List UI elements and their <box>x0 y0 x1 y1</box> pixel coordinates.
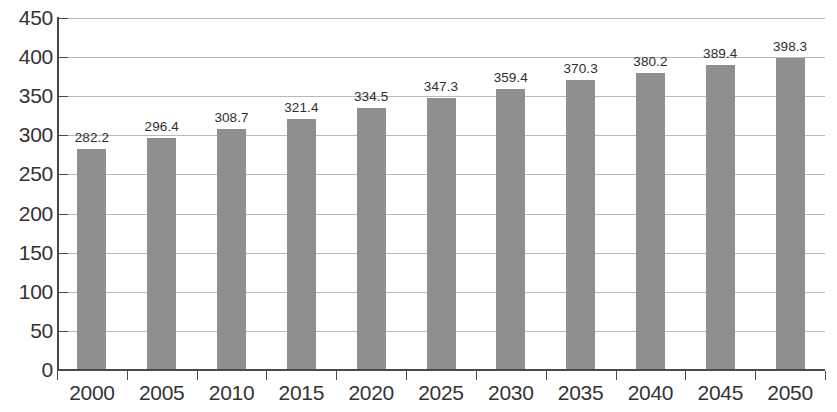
y-axis-tick-450 <box>59 18 68 19</box>
y-axis-label-50: 50 <box>1 320 53 341</box>
bar-2030[interactable] <box>496 89 525 370</box>
y-axis-tick-150 <box>59 253 68 254</box>
bar-2015[interactable] <box>287 119 316 370</box>
bar-2020[interactable] <box>357 108 386 370</box>
bar-2040[interactable] <box>636 73 665 370</box>
bar-2035[interactable] <box>566 80 595 370</box>
bar-2045[interactable] <box>706 65 735 370</box>
bar-value-label-2035: 370.3 <box>546 62 616 76</box>
bar-value-label-2025: 347.3 <box>406 80 476 94</box>
bar-value-label-2015: 321.4 <box>266 101 336 115</box>
y-axis-tick-250 <box>59 174 68 175</box>
bar-value-label-2030: 359.4 <box>476 71 546 85</box>
x-axis-label-2050: 2050 <box>745 382 835 403</box>
x-axis-tick-1 <box>127 371 128 380</box>
x-axis-line <box>57 369 825 371</box>
y-axis-label-350: 350 <box>1 85 53 106</box>
bar-value-label-2040: 380.2 <box>615 55 685 69</box>
x-axis-tick-9 <box>685 371 686 380</box>
bar-2050[interactable] <box>776 58 805 370</box>
plot-area <box>57 18 825 370</box>
x-axis-tick-6 <box>476 371 477 380</box>
y-axis-label-0: 0 <box>1 359 53 380</box>
x-axis-tick-2 <box>197 371 198 380</box>
x-axis-tick-5 <box>406 371 407 380</box>
bar-2010[interactable] <box>217 129 246 370</box>
bar-value-label-2045: 389.4 <box>685 47 755 61</box>
bar-value-label-2000: 282.2 <box>57 131 127 145</box>
y-axis-tick-50 <box>59 331 68 332</box>
y-axis-tick-400 <box>59 57 68 58</box>
y-axis-tick-200 <box>59 214 68 215</box>
bar-value-label-2010: 308.7 <box>197 111 267 125</box>
y-axis-label-250: 250 <box>1 163 53 184</box>
y-axis-tick-labels: 050100150200250300350400450 <box>0 0 53 412</box>
bar-value-label-2020: 334.5 <box>336 90 406 104</box>
y-axis-tick-0 <box>59 370 68 371</box>
x-axis-tick-0 <box>57 371 58 380</box>
y-axis-tick-350 <box>59 96 68 97</box>
bar-2000[interactable] <box>77 149 106 370</box>
x-axis-tick-7 <box>546 371 547 380</box>
y-axis-label-200: 200 <box>1 203 53 224</box>
gridline-450 <box>57 18 825 19</box>
y-axis-label-400: 400 <box>1 46 53 67</box>
y-axis-label-100: 100 <box>1 281 53 302</box>
y-axis-label-450: 450 <box>1 7 53 28</box>
x-axis-tick-11 <box>825 371 826 380</box>
bar-value-label-2005: 296.4 <box>127 120 197 134</box>
bar-value-label-2050: 398.3 <box>755 40 825 54</box>
x-axis-tick-4 <box>336 371 337 380</box>
y-axis-tick-100 <box>59 292 68 293</box>
x-axis-tick-8 <box>616 371 617 380</box>
y-axis-label-150: 150 <box>1 242 53 263</box>
bar-2005[interactable] <box>147 138 176 370</box>
y-axis-line <box>57 17 59 371</box>
bar-2025[interactable] <box>427 98 456 370</box>
y-axis-label-300: 300 <box>1 124 53 145</box>
x-axis-tick-10 <box>755 371 756 380</box>
bar-chart: 050100150200250300350400450 282.22000296… <box>0 0 837 412</box>
x-axis-tick-3 <box>266 371 267 380</box>
